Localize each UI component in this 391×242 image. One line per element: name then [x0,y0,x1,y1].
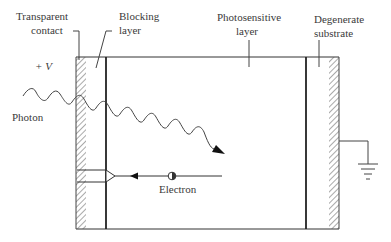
label-electron: Electron [159,183,197,195]
arrow-head-icon [212,145,225,154]
photon-path [23,89,225,154]
label-degenerate-substrate-2: substrate [314,27,353,39]
label-blocking-layer-2: layer [119,24,141,36]
label-transparent-contact-1: Transparent [16,10,68,22]
label-photosensitive-layer-2: layer [236,25,258,37]
label-photosensitive-layer-1: Photosensitive [217,11,281,23]
label-blocking-layer-1: Blocking [119,10,160,22]
label-degenerate-substrate-1: Degenerate [314,13,364,25]
label-transparent-contact-2: contact [31,24,63,36]
degenerate-substrate [329,57,339,229]
arrow-left-icon [130,173,138,180]
transparent-contact [76,57,86,229]
photoconductor-diagram: Transparent contact Blocking layer Photo… [0,0,391,242]
ground-icon [339,141,378,179]
label-voltage: + V [35,60,53,72]
label-photon: Photon [12,111,44,123]
electron-path [115,172,222,180]
